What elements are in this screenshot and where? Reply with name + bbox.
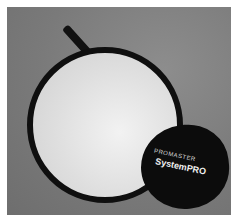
product-photo: PROMASTER SystemPRO [7,7,231,215]
image-canvas: PROMASTER SystemPRO [0,0,241,224]
